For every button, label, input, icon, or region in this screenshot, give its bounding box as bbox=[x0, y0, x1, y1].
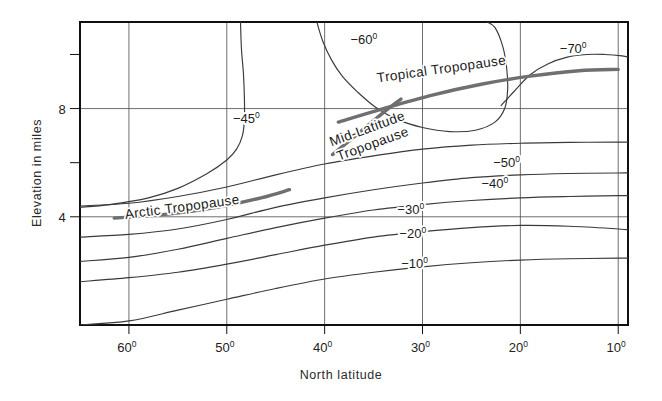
chart-container: −100−100−200−200−300−300−400−400−450−450… bbox=[0, 0, 662, 401]
degree-superscript: 0 bbox=[423, 255, 428, 265]
temperature-latitude-elevation-chart: −100−100−200−200−300−300−400−400−450−450… bbox=[0, 0, 662, 401]
y-tick-label: 4 bbox=[58, 210, 65, 225]
degree-superscript: 0 bbox=[523, 339, 528, 349]
degree-superscript: 0 bbox=[621, 339, 626, 349]
degree-superscript: 0 bbox=[372, 31, 377, 41]
y-tick-label: 8 bbox=[58, 102, 65, 117]
degree-superscript: 0 bbox=[425, 339, 430, 349]
degree-superscript: 0 bbox=[328, 339, 333, 349]
x-axis-title: North latitude bbox=[300, 368, 383, 382]
degree-superscript: 0 bbox=[132, 339, 137, 349]
degree-superscript: 0 bbox=[582, 40, 587, 50]
degree-superscript: 0 bbox=[230, 339, 235, 349]
degree-superscript: 0 bbox=[255, 110, 260, 120]
degree-superscript: 0 bbox=[504, 175, 509, 185]
degree-superscript: 0 bbox=[421, 225, 426, 235]
degree-superscript: 0 bbox=[419, 201, 424, 211]
degree-superscript: 0 bbox=[515, 154, 520, 164]
y-axis-title: Elevation in miles bbox=[30, 119, 44, 227]
